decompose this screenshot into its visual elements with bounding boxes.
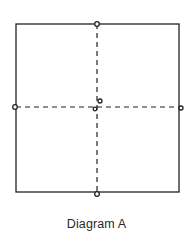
right-marker-icon: [179, 106, 183, 110]
center-marker-lower-icon: [93, 107, 97, 111]
bottom-marker-icon: [95, 192, 100, 197]
top-marker-icon: [95, 22, 100, 27]
center-marker-upper-icon: [98, 99, 102, 103]
diagram-canvas: [0, 0, 193, 246]
marker-group: [13, 22, 183, 197]
diagram-caption: Diagram A: [0, 217, 193, 231]
left-marker-icon: [13, 105, 18, 110]
